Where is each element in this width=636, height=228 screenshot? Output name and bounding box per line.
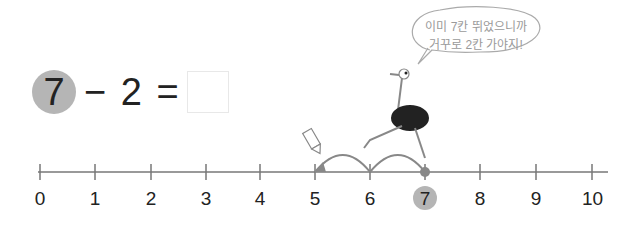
label-10: 10 [582,188,602,210]
label-9: 9 [526,188,546,210]
label-8: 8 [470,188,490,210]
label-7-highlighted: 7 [413,186,437,210]
label-6: 6 [360,188,380,210]
label-5: 5 [305,188,325,210]
pencil-icon [303,128,325,156]
jump-arc-7-6 [370,155,425,172]
start-point-icon [420,167,430,177]
ostrich-icon [364,69,428,158]
label-0: 0 [30,188,50,210]
speech-bubble-text: 이미 7칸 뛰었으니까 거꾸로 2칸 가야지! [420,18,532,54]
label-1: 1 [85,188,105,210]
label-2: 2 [141,188,161,210]
label-4: 4 [250,188,270,210]
label-3: 3 [196,188,216,210]
